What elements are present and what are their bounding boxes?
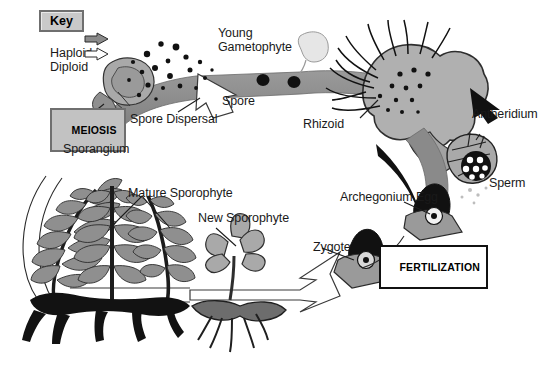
mature-sporophyte-label: Mature Sporophyte bbox=[128, 187, 233, 201]
meiosis-label-text: MEIOSIS bbox=[71, 124, 116, 136]
fertilization-label: FERTILIZATION bbox=[379, 245, 488, 289]
fern-frond-right bbox=[126, 195, 196, 306]
key-entry-diploid: Diploid bbox=[36, 46, 88, 88]
key-title: Key bbox=[50, 14, 73, 28]
key-entry-diploid-label: Diploid bbox=[50, 60, 88, 74]
archegonium-egg-label: Archegonium Egg bbox=[340, 191, 438, 205]
antheridium-label: Antheridium bbox=[472, 108, 538, 122]
fern-frond-left bbox=[31, 178, 122, 304]
fern-life-cycle-diagram: Key Haploid Diploid MEIOSIS FERTILIZATIO… bbox=[0, 0, 542, 371]
young-gametophyte-label: Young Gametophyte bbox=[218, 27, 292, 54]
rhizoid-label: Rhizoid bbox=[303, 118, 344, 132]
fertilization-label-text: FERTILIZATION bbox=[399, 261, 480, 273]
zygote-label: Zygote bbox=[313, 241, 351, 255]
sperm-label: Sperm bbox=[489, 177, 525, 191]
spore-glyph bbox=[257, 74, 270, 86]
new-sporophyte bbox=[192, 214, 286, 352]
rhizome bbox=[22, 293, 190, 344]
spore-label: Spore bbox=[222, 95, 255, 109]
key-box: Key bbox=[39, 10, 84, 32]
spore-dispersal-label: Spore Dispersal bbox=[130, 113, 217, 127]
haploid-arrow-icon bbox=[84, 32, 110, 46]
diploid-arrow-icon bbox=[84, 47, 110, 61]
sperm-specks bbox=[461, 187, 488, 205]
new-sporophyte-label: New Sporophyte bbox=[198, 212, 289, 226]
sporangium-label: Sporangium bbox=[63, 143, 129, 157]
